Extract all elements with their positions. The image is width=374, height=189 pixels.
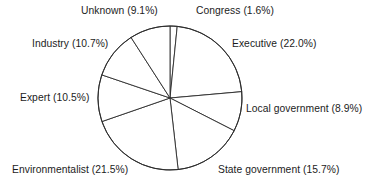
slice-label-unknown: Unknown (9.1%) xyxy=(81,5,158,17)
pie-chart-figure: Congress (1.6%) Executive (22.0%) Local … xyxy=(0,0,374,189)
slice-label-executive: Executive (22.0%) xyxy=(232,38,316,50)
slice-label-industry: Industry (10.7%) xyxy=(32,38,108,50)
pie-slice-executive xyxy=(170,26,242,98)
slice-label-expert: Expert (10.5%) xyxy=(20,92,89,104)
slice-label-environmentalist: Environmentalist (21.5%) xyxy=(12,164,128,176)
pie-slices-group xyxy=(98,26,242,170)
slice-label-congress: Congress (1.6%) xyxy=(196,5,274,17)
slice-label-local-government: Local government (8.9%) xyxy=(246,103,362,115)
slice-label-state-government: State government (15.7%) xyxy=(218,164,339,176)
